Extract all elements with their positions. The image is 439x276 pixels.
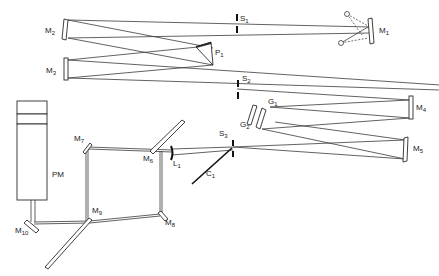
mirror-m5 bbox=[403, 137, 408, 162]
ray bbox=[172, 150, 233, 155]
mirror-m1 bbox=[368, 18, 374, 44]
ray bbox=[68, 47, 198, 60]
mirror-m2 bbox=[62, 19, 68, 40]
ray bbox=[68, 65, 213, 78]
label-m7: M7 bbox=[74, 135, 84, 144]
ray bbox=[275, 122, 405, 140]
ray bbox=[270, 100, 410, 107]
mirror-m3 bbox=[64, 58, 68, 80]
label-m5: M5 bbox=[413, 145, 423, 154]
dashed-ray bbox=[347, 14, 368, 26]
mirror-m7 bbox=[83, 143, 92, 154]
ray bbox=[68, 38, 213, 65]
ray bbox=[262, 129, 405, 159]
label-m4: M4 bbox=[416, 104, 426, 113]
label-m1: M1 bbox=[379, 27, 389, 36]
label-m6: M6 bbox=[143, 155, 153, 164]
mirror-m9 bbox=[45, 218, 92, 269]
ray bbox=[90, 216, 160, 223]
label-m3: M3 bbox=[46, 67, 56, 76]
label-p1: P1 bbox=[215, 49, 224, 58]
ray bbox=[233, 147, 405, 159]
ray bbox=[34, 223, 90, 224]
ray bbox=[68, 60, 439, 85]
label-m10: M10 bbox=[15, 227, 28, 236]
label-c1: C1 bbox=[206, 170, 215, 179]
ray bbox=[237, 89, 410, 100]
ray bbox=[68, 78, 439, 90]
label-s3: S3 bbox=[219, 130, 228, 139]
label-pm: PM bbox=[52, 171, 64, 179]
source-lamp-icon bbox=[345, 12, 350, 17]
ray bbox=[34, 221, 90, 222]
label-m2: M2 bbox=[45, 27, 55, 36]
optical-diagram: M2 M3 M1 M4 M5 S1 S2 S3 P1 G1 G2 L1 C1 M… bbox=[0, 0, 439, 276]
label-m8: M8 bbox=[165, 219, 175, 228]
label-s1: S1 bbox=[240, 15, 249, 24]
label-g1: G1 bbox=[268, 98, 278, 107]
ray bbox=[68, 20, 213, 48]
label-s2: S2 bbox=[242, 75, 251, 84]
ray bbox=[172, 147, 233, 149]
label-g2: G2 bbox=[240, 121, 250, 130]
label-l1: L1 bbox=[173, 160, 181, 169]
ray bbox=[341, 27, 368, 43]
photomultiplier bbox=[17, 101, 47, 200]
grating-g1 bbox=[256, 108, 266, 129]
mirror-m4 bbox=[409, 96, 413, 119]
label-m9: M9 bbox=[92, 207, 102, 216]
ray bbox=[270, 107, 410, 118]
ray bbox=[68, 20, 370, 27]
lens-l1 bbox=[171, 146, 173, 160]
source-lamp-icon bbox=[339, 41, 344, 46]
ray bbox=[68, 33, 370, 38]
